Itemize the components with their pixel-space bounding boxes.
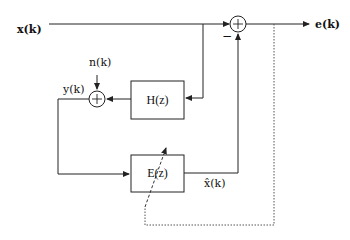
estimate-label: x̂(k) bbox=[204, 178, 225, 189]
input-label: x(k) bbox=[17, 24, 42, 35]
estimate-line bbox=[184, 34, 238, 173]
h-block-label: H(z) bbox=[131, 94, 184, 106]
block-diagram: x(k) e(k) n(k) y(k) x̂(k) − H(z) E(z) bbox=[0, 0, 350, 240]
adaptation-dotted-line bbox=[145, 24, 274, 225]
e-block-label: E(z) bbox=[131, 167, 184, 179]
observed-label: y(k) bbox=[63, 84, 84, 95]
h-input-line bbox=[186, 24, 203, 98]
top-summing-junction bbox=[230, 16, 246, 32]
diagram-lines bbox=[0, 0, 350, 240]
y-line bbox=[58, 99, 129, 174]
output-label: e(k) bbox=[315, 19, 340, 30]
left-summing-junction bbox=[89, 91, 105, 107]
minus-sign: − bbox=[222, 30, 232, 42]
noise-label: n(k) bbox=[89, 57, 111, 68]
